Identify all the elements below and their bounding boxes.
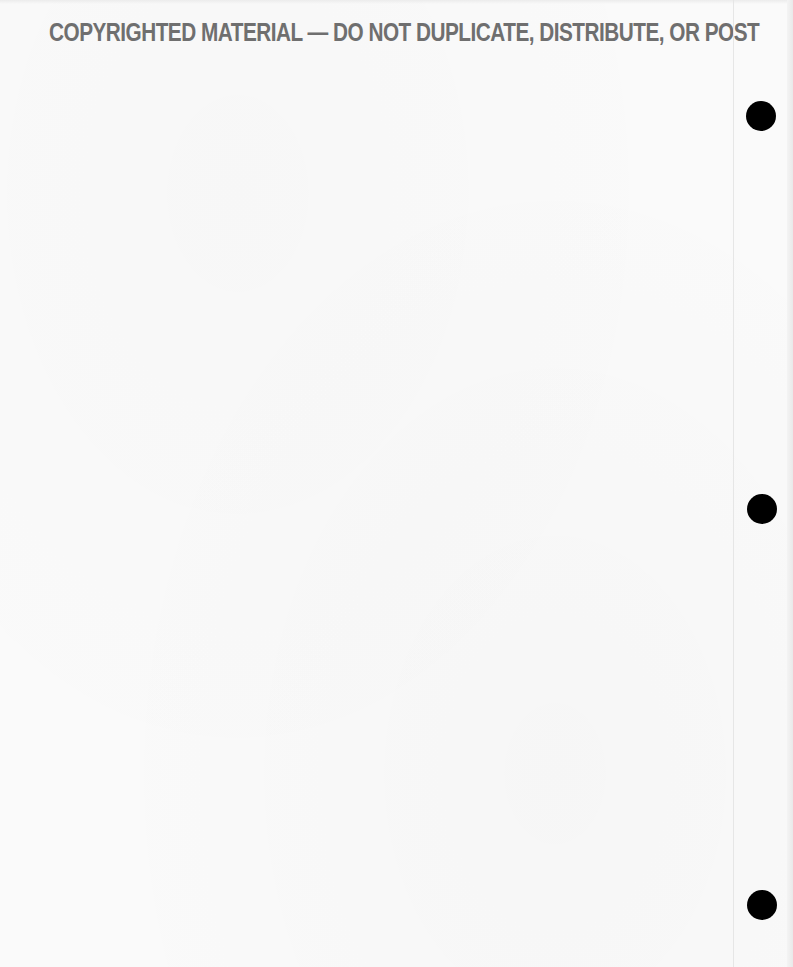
page-top-edge [0, 0, 793, 4]
scanned-page: COPYRIGHTED MATERIAL — DO NOT DUPLICATE,… [0, 0, 793, 967]
punch-hole-bottom-icon [747, 890, 777, 920]
copyright-banner: COPYRIGHTED MATERIAL — DO NOT DUPLICATE,… [49, 17, 759, 47]
punch-hole-top-icon [746, 101, 776, 131]
punch-hole-middle-icon [747, 494, 777, 524]
margin-line [733, 0, 734, 967]
page-right-edge [787, 0, 793, 967]
